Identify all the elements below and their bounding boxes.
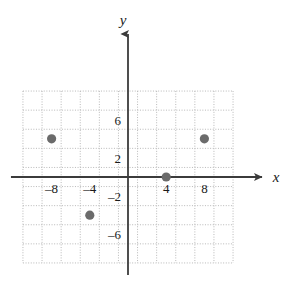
- data-point-marker: [200, 134, 209, 143]
- y-tick-label: –6: [107, 227, 122, 242]
- x-axis-label: x: [272, 169, 280, 185]
- axis-lines: [11, 34, 262, 275]
- data-point-marker: [162, 172, 171, 181]
- x-tick-label: –8: [44, 181, 58, 196]
- x-tick-label: 8: [201, 181, 208, 196]
- data-point-marker: [85, 211, 94, 220]
- y-tick-label: 2: [115, 151, 122, 166]
- y-tick-label: 6: [115, 113, 122, 128]
- x-tick-label: 4: [163, 181, 170, 196]
- coordinate-plane-figure: –8–44862–2–6 x y: [0, 0, 292, 300]
- x-tick-label: –4: [82, 181, 97, 196]
- scatter-plot-svg: –8–44862–2–6 x y: [0, 0, 292, 300]
- data-point-marker: [47, 134, 56, 143]
- y-axis-label: y: [118, 12, 127, 28]
- y-tick-label: –2: [107, 189, 121, 204]
